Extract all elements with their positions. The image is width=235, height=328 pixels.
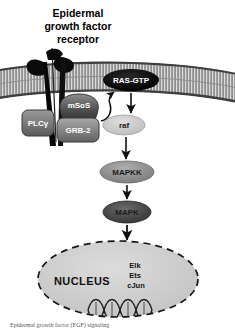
mapk-label: MAPK (115, 208, 139, 217)
node-ras-gtp: RAS-GTP (103, 69, 159, 91)
egf-signaling-figure: Epidermal growth factor receptor (0, 0, 235, 328)
plc-gamma-label: PLCγ (28, 119, 49, 128)
page-title: Epidermal growth factor receptor (44, 7, 111, 45)
node-mapkk: MAPKK (100, 161, 154, 183)
nucleus-label: NUCLEUS (54, 275, 110, 287)
mapkk-label: MAPKK (112, 168, 142, 177)
raf-label: raf (119, 121, 130, 130)
tf-label-ets: Ets (129, 271, 141, 280)
tf-label-cjun: cJun (127, 281, 145, 290)
node-plc-gamma: PLCγ (22, 110, 54, 136)
node-raf: raf (103, 115, 145, 135)
ras-gtp-label: RAS-GTP (113, 76, 150, 85)
title-line-3: receptor (57, 33, 99, 45)
title-line-2: growth factor (44, 20, 111, 32)
figure-canvas: Epidermal growth factor receptor (0, 0, 235, 328)
nucleus: NUCLEUS Elk Ets cJun (38, 241, 198, 321)
tf-label-elk: Elk (129, 261, 141, 270)
node-grb-2: GRB-2 (57, 118, 99, 142)
grb-2-label: GRB-2 (66, 126, 91, 135)
figure-caption: Epidermal growth factor (EGF) signaling (10, 322, 109, 328)
title-line-1: Epidermal (53, 7, 104, 19)
msos-label: mSoS (68, 101, 91, 110)
node-mapk: MAPK (103, 201, 151, 223)
